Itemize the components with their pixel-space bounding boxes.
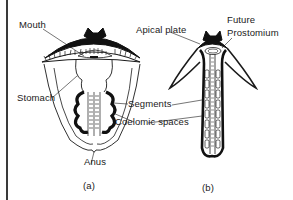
label-stomach: Stomach: [17, 93, 55, 103]
caption-b: (b): [202, 183, 214, 193]
trochophore-larva-drawing: [42, 28, 140, 164]
label-future: Future: [227, 15, 255, 25]
label-segments: Segments: [128, 99, 172, 109]
label-anus: Anus: [84, 157, 106, 167]
label-apical-plate: Apical plate: [136, 25, 186, 35]
label-prostomium: Prostomium: [227, 28, 279, 38]
label-coelomic-spaces: Coelomic spaces: [115, 117, 189, 127]
label-mouth: Mouth: [19, 20, 46, 30]
segmented-larva-drawing: [148, 31, 256, 156]
caption-a: (a): [83, 181, 95, 191]
